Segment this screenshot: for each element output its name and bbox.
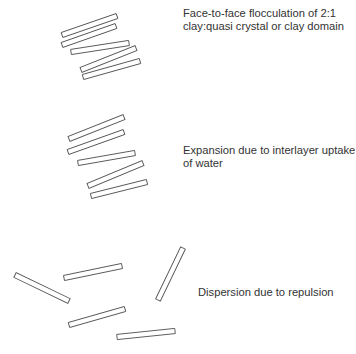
flocculation-label-line-1: Face-to-face flocculation of 2:1 xyxy=(183,7,344,20)
clay-platelet xyxy=(14,273,70,304)
dispersion-label-line-1: Dispersion due to repulsion xyxy=(198,286,334,299)
clay-platelet xyxy=(156,247,186,301)
flocculation-platelets xyxy=(61,14,141,80)
dispersion-platelets xyxy=(14,247,185,340)
clay-platelet xyxy=(68,307,125,328)
expansion-label: Expansion due to interlayer uptake of wa… xyxy=(183,144,355,170)
expansion-platelets xyxy=(67,115,148,199)
expansion-label-line-1: Expansion due to interlayer uptake xyxy=(183,144,355,157)
clay-platelet xyxy=(117,328,176,339)
expansion-label-line-2: of water xyxy=(183,157,355,170)
flocculation-label-line-2: clay:quasi crystal or clay domain xyxy=(183,20,344,33)
clay-platelet xyxy=(78,150,136,165)
dispersion-label: Dispersion due to repulsion xyxy=(198,286,334,299)
clay-platelet-diagram xyxy=(0,0,356,354)
flocculation-label: Face-to-face flocculation of 2:1 clay:qu… xyxy=(183,7,344,33)
clay-platelet xyxy=(63,263,122,280)
